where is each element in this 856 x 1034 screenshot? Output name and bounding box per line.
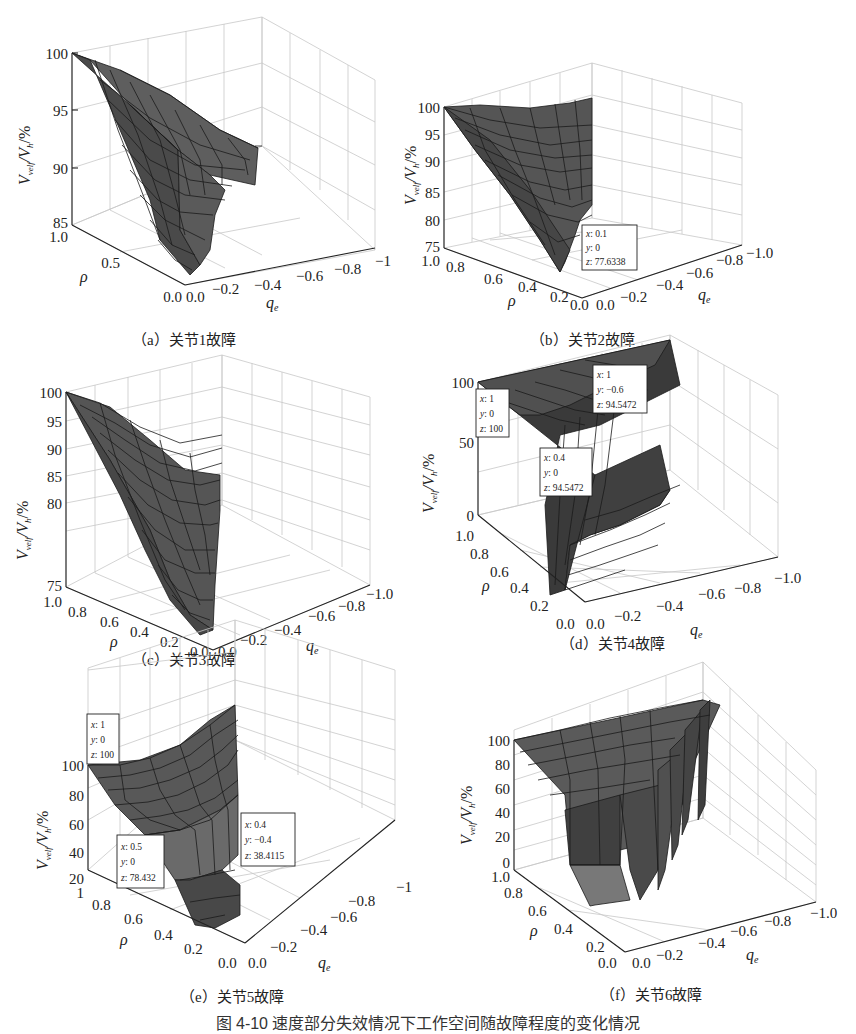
chart-panel-b: 100 95 90 85 80 75 1.0 0.8 0.6 0.4 0.2 0… xyxy=(420,0,856,315)
svg-text:y: 0: y: 0 xyxy=(120,857,135,867)
datatip-annotation: x: 0.5 y: 0 z: 78.432 xyxy=(117,835,164,888)
z-tick: 100 xyxy=(46,46,69,62)
surface-plot-d: 100 50 0 1.0 0.8 0.6 0.4 0.2 0.0 0.0 −0.… xyxy=(420,345,856,635)
rho-axis-label: ρ xyxy=(529,922,538,940)
datatip-annotation: x: 0.4 y: 0 z: 94.5472 xyxy=(540,448,592,496)
rho-tick: 0.8 xyxy=(470,546,489,562)
rho-tick: 0.0 xyxy=(556,616,575,632)
rho-tick: 0.6 xyxy=(490,564,509,580)
qe-tick: −0.4 xyxy=(698,935,726,951)
z-tick: 95 xyxy=(53,103,68,119)
surface-plot-c: 100 95 90 85 80 75 1.0 0.8 0.6 0.4 0.2 0… xyxy=(0,345,420,645)
svg-text:y: 0: y: 0 xyxy=(90,735,105,745)
rho-tick: 0.6 xyxy=(100,614,119,630)
z-axis-label: Vvelf/Vh/% xyxy=(420,454,439,513)
rho-tick: 0.4 xyxy=(510,580,529,596)
qe-tick: −0.6 xyxy=(698,586,726,602)
svg-text:x: 1: x: 1 xyxy=(90,720,105,730)
rho-tick: 0.8 xyxy=(68,604,87,620)
qe-axis-label: qe xyxy=(746,946,759,965)
qe-tick: 0.0 xyxy=(248,955,267,971)
rho-tick: 0.0 xyxy=(570,297,589,313)
qe-tick: −0.2 xyxy=(656,947,683,963)
rho-tick: 0.5 xyxy=(101,255,120,271)
qe-tick: −0.2 xyxy=(212,281,239,297)
svg-text:z: 94.5472: z: 94.5472 xyxy=(596,400,637,410)
chart-panel-e: 100 80 60 40 20 1 0.8 0.6 0.4 0.2 0.0 0.… xyxy=(0,670,420,980)
rho-axis-label: ρ xyxy=(119,931,128,949)
rho-tick: 0.0 xyxy=(598,955,617,971)
datatip-z: z: 77.6338 xyxy=(585,257,626,267)
svg-text:x: 0.4: x: 0.4 xyxy=(543,453,565,463)
qe-tick: 0.0 xyxy=(586,616,605,632)
rho-axis-label: ρ xyxy=(79,268,88,286)
qe-tick: −0.2 xyxy=(614,608,641,624)
datatip-y: y: 0 xyxy=(585,243,600,253)
rho-axis-label: ρ xyxy=(481,577,490,595)
z-axis-label: Vvelf/Vh/% xyxy=(402,146,421,205)
rho-tick: 1.0 xyxy=(455,528,474,544)
qe-axis-label: qe xyxy=(318,954,331,973)
chart-panel-c: 100 95 90 85 80 75 1.0 0.8 0.6 0.4 0.2 0… xyxy=(0,345,420,645)
qe-tick: −0.4 xyxy=(254,277,282,293)
svg-text:y: −0.6: y: −0.6 xyxy=(596,385,624,395)
rho-tick: 0.6 xyxy=(528,903,547,919)
rho-tick: 0.2 xyxy=(184,941,203,957)
qe-tick: −1.0 xyxy=(366,586,393,602)
z-tick: 95 xyxy=(425,127,440,143)
qe-tick: −0.8 xyxy=(764,913,791,929)
rho-axis-label: ρ xyxy=(109,633,118,651)
surface-mesh xyxy=(444,98,592,272)
rho-tick: 0.4 xyxy=(554,921,573,937)
svg-text:y: 0: y: 0 xyxy=(543,468,558,478)
qe-tick: −0.4 xyxy=(656,277,684,293)
z-tick: 85 xyxy=(425,185,440,201)
rho-tick: 1.0 xyxy=(421,253,440,269)
figure-caption: 图 4-10 速度部分失效情况下工作空间随故障程度的变化情况 xyxy=(0,1010,856,1034)
rho-tick: 0.6 xyxy=(124,911,143,927)
z-tick: 75 xyxy=(47,578,62,594)
rho-tick: 1.0 xyxy=(43,594,62,610)
surface-mesh xyxy=(66,392,222,635)
svg-text:x: 1: x: 1 xyxy=(596,370,611,380)
z-tick: 100 xyxy=(452,375,475,391)
qe-tick: −0.4 xyxy=(274,622,302,638)
surface-plot-f: 100 80 60 40 20 0 1.0 0.8 0.6 0.4 0.2 0.… xyxy=(420,670,856,980)
svg-text:y: −0.4: y: −0.4 xyxy=(244,835,272,845)
rho-tick: 0.4 xyxy=(518,279,537,295)
z-tick: 95 xyxy=(47,414,62,430)
surface-mesh xyxy=(514,700,720,906)
z-tick: 80 xyxy=(425,213,440,229)
z-tick: 40 xyxy=(495,805,510,821)
rho-tick: 0.4 xyxy=(130,624,149,640)
datatip-annotation: x: 1 y: 0 z: 100 xyxy=(476,389,509,437)
rho-tick: 0.8 xyxy=(92,897,111,913)
qe-tick: −0.6 xyxy=(296,268,324,284)
rho-tick: 0.0 xyxy=(163,289,182,305)
datatip-annotation: x: 0.1 y: 0 z: 77.6338 xyxy=(582,225,637,270)
rho-tick: 1 xyxy=(77,885,85,901)
qe-tick: −0.6 xyxy=(308,608,336,624)
z-tick: 80 xyxy=(47,496,62,512)
rho-tick: 0.8 xyxy=(504,885,523,901)
rho-tick: 0.4 xyxy=(154,927,173,943)
z-axis-label: Vvelf/Vh/% xyxy=(458,786,477,845)
qe-tick: −0.8 xyxy=(334,261,361,277)
rho-tick: 0.2 xyxy=(550,289,569,305)
qe-tick: −0.6 xyxy=(686,265,714,281)
z-tick: 80 xyxy=(69,788,84,804)
qe-tick: −0.8 xyxy=(716,252,743,268)
z-tick: 20 xyxy=(495,829,510,845)
z-tick: 0 xyxy=(467,508,475,524)
z-axis-label: Vvelf/Vh/% xyxy=(34,811,53,870)
subcaption-f: （f）关节6故障 xyxy=(600,983,703,1004)
chart-panel-a: 100 95 90 85 1.0 0.5 0.0 0.0 −0.2 −0.4 −… xyxy=(0,0,420,315)
rho-tick: 0.8 xyxy=(446,259,465,275)
chart-panel-f: 100 80 60 40 20 0 1.0 0.8 0.6 0.4 0.2 0.… xyxy=(420,670,856,980)
datatip-annotation: x: 1 y: −0.6 z: 94.5472 xyxy=(593,365,647,413)
qe-tick: −0.2 xyxy=(270,939,297,955)
datatip-annotation: x: 1 y: 0 z: 100 xyxy=(87,714,119,764)
qe-tick: −0.4 xyxy=(656,598,684,614)
rho-tick: 1.0 xyxy=(491,869,510,885)
subcaption-d: （d）关节4故障 xyxy=(560,632,665,653)
